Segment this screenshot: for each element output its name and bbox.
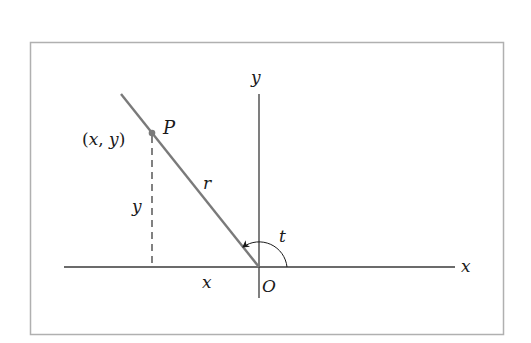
horizontal-leg-label: x (202, 272, 212, 292)
point-p-dot (149, 130, 156, 137)
y-axis-label: y (250, 67, 261, 87)
vertical-leg-label: y (131, 196, 142, 216)
x-axis-label: x (461, 256, 471, 276)
point-label: P (162, 117, 176, 138)
coord-y: y (108, 129, 119, 149)
point-coordinates: (x, y) (82, 129, 125, 149)
coord-close-paren: ) (119, 129, 126, 149)
radius-label: r (203, 173, 212, 193)
coord-separator: , (98, 129, 109, 149)
coord-open-paren: ( (82, 129, 89, 149)
origin-label: O (262, 276, 276, 296)
radius-ray (121, 94, 259, 267)
angle-label: t (279, 226, 286, 246)
coord-x: x (89, 129, 99, 149)
polar-diagram: y x O P (x, y) r t y x (0, 0, 531, 343)
